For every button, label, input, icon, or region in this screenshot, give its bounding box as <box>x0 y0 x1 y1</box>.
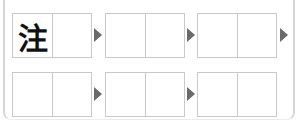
triangle-right-icon <box>94 28 102 42</box>
word-box-r1-b1: 注 <box>12 13 92 58</box>
word-box-r2-b2 <box>105 72 185 117</box>
triangle-right-icon <box>187 28 195 42</box>
triangle-right-icon <box>280 28 288 42</box>
word-box-r1-b3 <box>197 13 277 58</box>
char-cell[interactable] <box>52 73 91 116</box>
char-cell[interactable] <box>237 73 276 116</box>
char-cell[interactable]: 注 <box>13 14 52 57</box>
char-cell[interactable] <box>52 14 91 57</box>
char-cell[interactable] <box>13 73 52 116</box>
char-cell[interactable] <box>145 14 184 57</box>
char-cell[interactable] <box>145 73 184 116</box>
char-cell[interactable] <box>106 14 145 57</box>
word-box-r2-b1 <box>12 72 92 117</box>
char-cell[interactable] <box>237 14 276 57</box>
triangle-right-icon <box>94 87 102 101</box>
word-box-r2-b3 <box>197 72 277 117</box>
triangle-right-icon <box>187 87 195 101</box>
char-cell[interactable] <box>198 73 237 116</box>
word-box-r1-b2 <box>105 13 185 58</box>
char-cell[interactable] <box>198 14 237 57</box>
char-cell[interactable] <box>106 73 145 116</box>
